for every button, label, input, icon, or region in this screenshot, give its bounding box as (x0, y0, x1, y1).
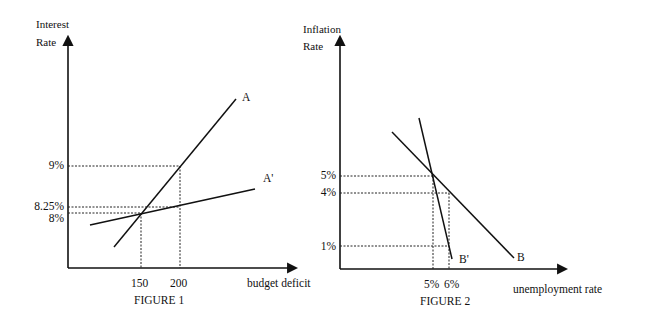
figure2-x-axis-title: unemployment rate (513, 283, 602, 296)
figure1-y-tick-9: 9% (20, 159, 64, 172)
figure2-caption: FIGURE 2 (420, 295, 470, 308)
curve-A-label: A (242, 91, 250, 104)
figure1-y-axis-title-line1: Interest (36, 16, 69, 32)
figure2-y-tick-1: 1% (296, 240, 336, 253)
curve-B-label: B (517, 251, 525, 264)
figure2-x-tick-5: 5% (424, 278, 439, 291)
curve-A (114, 99, 236, 247)
curve-A-prime-label: A' (263, 172, 273, 185)
figure1-caption: FIGURE 1 (134, 294, 184, 307)
figure1-plot (68, 37, 296, 268)
curve-B-prime-label: B' (459, 253, 469, 266)
figure1-y-axis-title-line2: Rate (36, 34, 56, 50)
figure2-y-axis-title-line2: Rate (303, 38, 323, 54)
figure2-y-axis-title-line1: Inflation (303, 21, 341, 37)
figure1-x-axis-title: budget deficit (247, 277, 311, 290)
curve-B (392, 132, 514, 258)
figure1-x-tick-200: 200 (170, 277, 187, 290)
figure2-y-tick-4: 4% (296, 186, 336, 199)
figure1-x-tick-150: 150 (131, 277, 148, 290)
figure2-x-tick-6: 6% (444, 278, 459, 291)
figure2-plot (340, 37, 566, 269)
figure2-guide-lines (340, 176, 449, 269)
figure1-y-tick-8: 8% (20, 212, 64, 225)
figure2-y-tick-5: 5% (296, 169, 336, 182)
